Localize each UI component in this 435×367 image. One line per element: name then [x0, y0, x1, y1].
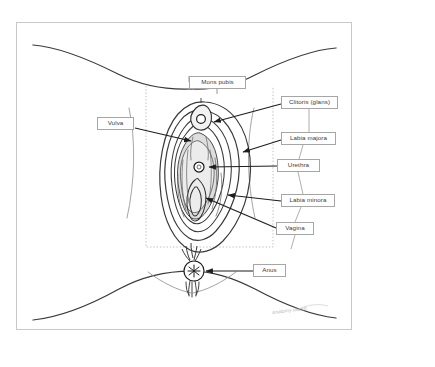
label-urethra[interactable]: Urethra: [277, 159, 320, 172]
label-vulva[interactable]: Vulva: [97, 117, 134, 130]
anatomy-illustration: [0, 0, 435, 367]
label-clitoris-glans[interactable]: Clitoris (glans): [281, 96, 338, 109]
leader-vagina: [206, 198, 276, 228]
diagram-page: Mons pubis Vulva Clitoris (glans) Labia …: [0, 0, 435, 367]
urethral-opening: [194, 162, 204, 172]
label-labia-majora[interactable]: Labia majora: [281, 132, 336, 145]
labia-minora-shaded-region: [177, 133, 218, 219]
anus-detail: [184, 261, 204, 297]
label-vagina[interactable]: Vagina: [276, 222, 314, 235]
label-anus[interactable]: Anus: [253, 264, 286, 277]
leader-clitoris: [214, 104, 281, 122]
leader-urethra: [209, 166, 277, 167]
label-mons-pubis[interactable]: Mons pubis: [189, 76, 246, 89]
label-labia-minora[interactable]: Labia minora: [281, 194, 335, 207]
